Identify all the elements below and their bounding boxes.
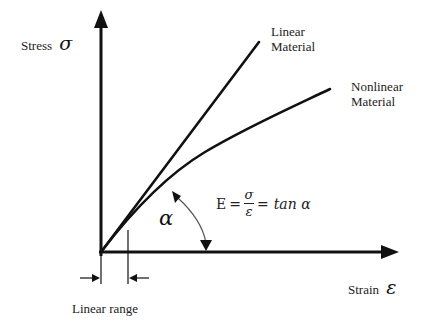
- y-axis-arrow-icon: [94, 10, 108, 28]
- angle-arc-top-arrow-icon: [172, 191, 181, 203]
- angle-arc-bottom-arrow-icon: [200, 240, 212, 251]
- formula-denominator: ε: [245, 205, 252, 219]
- epsilon-symbol: ε: [386, 276, 396, 298]
- linear-range-right-arrow-icon: [129, 274, 137, 282]
- nonlinear-material-label: Nonlinear Material: [351, 79, 403, 109]
- nonlinear-material-label-line1: Nonlinear: [351, 79, 403, 94]
- linear-range-left-arrow-icon: [92, 274, 100, 282]
- linear-material-label-line1: Linear: [271, 24, 315, 39]
- linear-material-label: Linear Material: [271, 24, 315, 54]
- formula-rhs: tan α: [274, 196, 311, 212]
- x-axis-arrow-icon: [381, 245, 399, 259]
- nonlinear-material-label-line2: Material: [351, 94, 403, 109]
- sigma-symbol: σ: [59, 32, 72, 54]
- linear-range-label: Linear range: [72, 301, 138, 316]
- alpha-symbol: α: [159, 211, 173, 226]
- formula-equals-1: =: [229, 196, 241, 212]
- x-axis-label: Strain ε: [348, 280, 397, 297]
- formula-equals-2: =: [257, 196, 269, 212]
- linear-material-line: [101, 42, 259, 252]
- y-axis-label-text: Stress: [21, 38, 52, 53]
- modulus-formula: E = σ ε = tan α: [216, 188, 311, 219]
- y-axis: [94, 10, 108, 256]
- nonlinear-material-curve: [101, 89, 330, 252]
- angle-arc: [178, 198, 206, 243]
- formula-numerator: σ: [245, 188, 254, 202]
- linear-material-label-line2: Material: [271, 39, 315, 54]
- formula-fraction: σ ε: [244, 188, 254, 219]
- x-axis-label-text: Strain: [348, 282, 379, 297]
- y-axis-label: Stress σ: [21, 36, 72, 53]
- formula-lhs: E: [216, 196, 226, 212]
- x-axis: [99, 245, 399, 259]
